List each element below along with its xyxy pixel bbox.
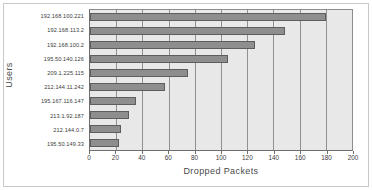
bar-chart-figure: Users 192.168.100.221192.168.113.2192.16… — [0, 0, 372, 190]
x-axis-tick-label: 60 — [165, 154, 172, 161]
bar-row — [90, 108, 352, 122]
bar — [90, 97, 136, 105]
bar-series — [90, 10, 352, 150]
bar-row — [90, 38, 352, 52]
bar — [90, 69, 188, 77]
x-axis-tick-label: 20 — [112, 154, 119, 161]
x-axis-tick-label: 160 — [295, 154, 306, 161]
x-axis-title: Dropped Packets — [89, 166, 353, 176]
bar-row — [90, 136, 352, 150]
bar-row — [90, 10, 352, 24]
x-axis-tick-label: 100 — [216, 154, 227, 161]
y-axis-title: Users — [0, 0, 18, 150]
bar — [90, 27, 285, 35]
bar — [90, 139, 119, 147]
bar-row — [90, 80, 352, 94]
bar — [90, 125, 121, 133]
x-axis-ticks: 020406080100120140160180200 — [89, 151, 353, 165]
y-axis-tick-label: 192.168.100.221 — [18, 9, 87, 23]
x-axis-tick-label: 80 — [191, 154, 198, 161]
x-axis-tick-label: 180 — [321, 154, 332, 161]
y-axis-tick-label: 212.144.11.242 — [18, 80, 87, 94]
y-axis-tick-label: 212.144.0.7 — [18, 123, 87, 137]
y-axis-tick-label: 195.50.140.126 — [18, 52, 87, 66]
y-axis-tick-label: 209.1.225.115 — [18, 66, 87, 80]
x-axis-tick-label: 120 — [242, 154, 253, 161]
bar-row — [90, 52, 352, 66]
y-axis-title-text: Users — [4, 62, 14, 88]
bar — [90, 41, 255, 49]
x-axis-tick-label: 140 — [268, 154, 279, 161]
bar — [90, 13, 326, 21]
y-axis-tick-label: 195.167.116.147 — [18, 94, 87, 108]
bar-row — [90, 24, 352, 38]
plot-area — [89, 9, 353, 151]
bar — [90, 111, 129, 119]
x-axis-tick-label: 40 — [138, 154, 145, 161]
y-axis-tick-labels: 192.168.100.221192.168.113.2192.168.100.… — [18, 9, 87, 151]
bar — [90, 83, 165, 91]
bar-row — [90, 66, 352, 80]
y-axis-tick-label: 195.50.149.33 — [18, 137, 87, 151]
x-axis-tick-label: 0 — [87, 154, 91, 161]
y-axis-tick-label: 192.168.113.2 — [18, 23, 87, 37]
x-axis-tick-label: 200 — [348, 154, 359, 161]
y-axis-tick-label: 213.1.92.187 — [18, 108, 87, 122]
bar-row — [90, 94, 352, 108]
y-axis-tick-label: 192.168.100.2 — [18, 37, 87, 51]
bar — [90, 55, 228, 63]
bar-row — [90, 122, 352, 136]
